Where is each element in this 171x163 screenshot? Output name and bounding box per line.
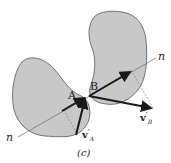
label-va-prime: v′A — [82, 128, 94, 142]
label-point-b: B — [90, 81, 98, 92]
label-point-a: A — [68, 90, 76, 101]
label-normal-top: n — [158, 51, 165, 62]
impact-diagram: A B n n v′A v′B (c) — [0, 0, 171, 163]
va-subscript: A — [90, 135, 94, 142]
label-normal-bottom: n — [6, 132, 13, 143]
figure-caption: (c) — [77, 148, 90, 158]
label-vb-prime: v′B — [140, 111, 152, 125]
vb-subscript: B — [148, 118, 152, 125]
